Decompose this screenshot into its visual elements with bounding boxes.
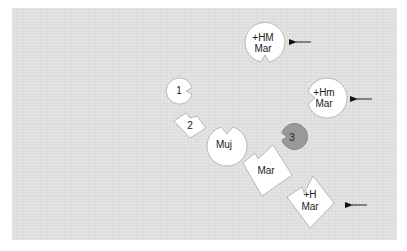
node-3: 3 — [282, 124, 308, 150]
svg-text:Muj: Muj — [216, 139, 232, 150]
node-hm-lower-mar: +Hm Mar — [308, 78, 347, 118]
node-muj: Muj — [207, 127, 247, 166]
svg-text:3: 3 — [289, 132, 295, 143]
svg-text:Mar: Mar — [254, 43, 272, 54]
svg-text:+Hm: +Hm — [313, 87, 334, 98]
node-hm-mar: +HM Mar — [245, 22, 285, 62]
svg-text:Mar: Mar — [257, 165, 275, 176]
svg-text:2: 2 — [187, 120, 193, 131]
svg-text:Mar: Mar — [301, 201, 319, 212]
node-1: 1 — [166, 78, 192, 104]
node-h-mar: +H Mar — [287, 176, 334, 228]
svg-text:+H: +H — [303, 189, 316, 200]
svg-text:1: 1 — [176, 85, 182, 96]
svg-text:Mar: Mar — [315, 98, 333, 109]
node-2: 2 — [174, 113, 206, 138]
svg-text:+HM: +HM — [252, 32, 273, 43]
node-mar: Mar — [243, 145, 292, 196]
diagram-canvas: +HM Mar 1 +Hm Mar 2 Muj 3 Mar +H — [0, 0, 407, 251]
